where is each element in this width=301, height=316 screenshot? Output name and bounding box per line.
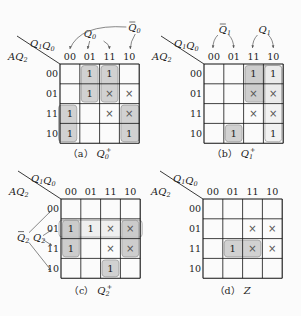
dont-care-cell: ×	[125, 108, 133, 119]
arrow	[129, 34, 135, 49]
kmap-d: 0001111000011110Q1Q0AQ2××1××（d） Z	[150, 171, 282, 296]
one-cell: 1	[106, 68, 112, 79]
one-cell: 1	[68, 243, 74, 254]
annotation-not-q1: Q1	[219, 24, 231, 37]
arrowhead-icon	[129, 46, 132, 49]
col-header: 11	[246, 186, 258, 197]
row-header: 10	[46, 128, 58, 139]
dont-care-cell: ×	[249, 108, 257, 119]
arrowhead-icon	[212, 45, 215, 48]
caption: （b） Q1+	[212, 146, 256, 161]
arrowhead-icon	[251, 45, 254, 48]
one-cell: 1	[107, 263, 113, 274]
col-header: 10	[267, 51, 279, 62]
col-variable-label: Q1Q0	[30, 38, 55, 53]
row-header: 10	[47, 263, 59, 274]
col-header: 11	[103, 51, 115, 62]
one-cell: 1	[126, 128, 132, 139]
col-variable-label: Q1Q0	[173, 173, 198, 188]
row-header: 01	[47, 223, 59, 234]
one-cell: 1	[250, 68, 256, 79]
dont-care-cell: ×	[105, 108, 113, 119]
kmap-b: 0001111000011110Q1Q0AQ211××××11（b） Q1+Q1…	[151, 24, 283, 161]
one-cell: 1	[68, 223, 74, 234]
one-cell: 1	[87, 88, 93, 99]
dont-care-cell: ×	[126, 223, 134, 234]
col-header: 10	[266, 186, 278, 197]
col-header: 10	[123, 51, 135, 62]
row-header: 10	[189, 263, 201, 274]
col-header: 01	[85, 186, 97, 197]
row-variable-label: AQ2	[150, 186, 171, 199]
row-variable-label: AQ2	[7, 51, 28, 64]
one-cell: 1	[67, 128, 73, 139]
arrow	[212, 35, 218, 48]
svg-text:Q0: Q0	[128, 22, 140, 35]
row-variable-label: AQ2	[151, 51, 172, 64]
row-header: 11	[47, 243, 59, 254]
svg-text:Q2: Q2	[17, 232, 29, 245]
svg-text:Q0: Q0	[84, 28, 96, 41]
dont-care-cell: ×	[126, 243, 134, 254]
dont-care-cell: ×	[106, 223, 114, 234]
one-cell: 1	[67, 108, 73, 119]
row-header: 00	[46, 68, 58, 79]
one-cell: 1	[88, 223, 94, 234]
col-variable-label: Q1Q0	[174, 38, 199, 53]
one-cell: 1	[230, 243, 236, 254]
row-header: 01	[189, 223, 201, 234]
col-variable-label: Q1Q0	[31, 173, 56, 188]
col-header: 01	[227, 186, 239, 197]
one-cell: 1	[231, 128, 237, 139]
svg-text:Q1: Q1	[219, 24, 231, 37]
row-header: 11	[46, 108, 58, 119]
kmap-c: 0001111000011110Q1Q0AQ211××1××1（c） Q2+Q2…	[8, 171, 142, 298]
annotation-q2: Q2	[33, 232, 45, 245]
dont-care-cell: ×	[249, 88, 257, 99]
arrow	[251, 35, 257, 48]
annotation-q0: Q0	[84, 28, 96, 41]
kmap-a: 0001111000011110Q1Q0AQ2111××1××11（a） Q0+…	[7, 22, 141, 161]
dont-care-cell: ×	[248, 223, 256, 234]
arrowhead-icon	[87, 46, 90, 49]
one-cell: 1	[270, 68, 276, 79]
row-header: 01	[190, 88, 202, 99]
arrow	[104, 41, 111, 49]
dont-care-cell: ×	[268, 243, 276, 254]
col-header: 00	[64, 51, 76, 62]
one-cell: 1	[270, 128, 276, 139]
col-header: 01	[228, 51, 240, 62]
annotation-not-q2: Q2	[17, 232, 29, 245]
arrowhead-icon	[108, 46, 111, 49]
row-header: 11	[189, 243, 201, 254]
dont-care-cell: ×	[269, 108, 277, 119]
caption: （c） Q2+	[69, 283, 112, 298]
annotation-not-q0: Q0	[128, 22, 140, 35]
dont-care-cell: ×	[106, 243, 114, 254]
col-header: 01	[84, 51, 96, 62]
svg-text:Q1: Q1	[258, 24, 270, 37]
col-header: 00	[65, 186, 77, 197]
row-variable-label: AQ2	[8, 186, 29, 199]
dont-care-cell: ×	[268, 223, 276, 234]
row-header: 01	[46, 88, 58, 99]
col-header: 11	[104, 186, 116, 197]
dont-care-cell: ×	[105, 88, 113, 99]
caption: （a） Q0+	[68, 146, 111, 161]
col-header: 00	[207, 186, 219, 197]
dont-care-cell: ×	[125, 88, 133, 99]
arrowhead-icon	[272, 45, 275, 48]
arrow	[69, 27, 126, 49]
caption: （d） Z	[215, 285, 252, 296]
annotation-q1: Q1	[258, 24, 270, 37]
row-header: 00	[190, 68, 202, 79]
karnaugh-map-figure: 0001111000011110Q1Q0AQ2111××1××11（a） Q0+…	[0, 0, 301, 316]
row-header: 11	[190, 108, 202, 119]
arrow	[87, 41, 90, 49]
svg-text:Q2: Q2	[33, 232, 45, 245]
one-cell: 1	[87, 68, 93, 79]
col-header: 11	[247, 51, 259, 62]
row-header: 00	[189, 203, 201, 214]
arrowhead-icon	[232, 45, 235, 48]
row-header: 10	[190, 128, 202, 139]
